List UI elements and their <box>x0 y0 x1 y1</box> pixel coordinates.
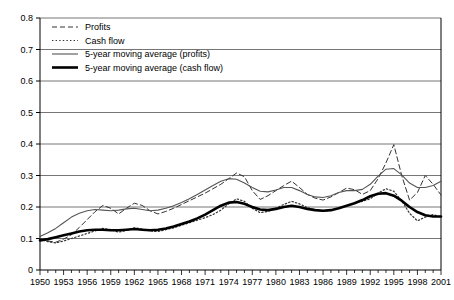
x-tick-label-1: 1953 <box>54 277 74 287</box>
x-tick-label-8: 1974 <box>219 277 239 287</box>
x-tick-label-10: 1980 <box>266 277 286 287</box>
y-tick-label-5: 0.5 <box>20 108 33 118</box>
y-tick-label-0: 0 <box>28 265 33 275</box>
x-tick-label-12: 1986 <box>313 277 333 287</box>
x-tick-label-9: 1977 <box>242 277 262 287</box>
y-tick-label-3: 0.3 <box>20 171 33 181</box>
x-tick-label-17: 2001 <box>431 277 451 287</box>
series-line-1 <box>40 189 441 243</box>
x-tick-label-16: 1998 <box>407 277 427 287</box>
legend-label-3: 5-year moving average (cash flow) <box>85 63 223 73</box>
legend-label-2: 5-year moving average (profits) <box>85 49 210 59</box>
x-tick-label-14: 1992 <box>360 277 380 287</box>
x-tick-label-0: 1950 <box>30 277 50 287</box>
y-tick-label-4: 0.4 <box>20 139 33 149</box>
x-tick-label-15: 1995 <box>384 277 404 287</box>
y-tick-label-7: 0.7 <box>20 45 33 55</box>
x-tick-label-2: 1956 <box>77 277 97 287</box>
x-tick-label-6: 1968 <box>172 277 192 287</box>
x-tick-label-3: 1959 <box>101 277 121 287</box>
legend-label-0: Profits <box>85 22 111 32</box>
x-tick-label-7: 1971 <box>195 277 215 287</box>
y-tick-label-8: 0.8 <box>20 13 33 23</box>
x-tick-label-5: 1965 <box>148 277 168 287</box>
legend-label-1: Cash flow <box>85 36 125 46</box>
y-tick-label-1: 0.1 <box>20 234 33 244</box>
x-tick-label-13: 1989 <box>337 277 357 287</box>
chart-container: 00.10.20.30.40.50.60.70.8195019531956195… <box>0 0 454 300</box>
x-tick-label-4: 1962 <box>124 277 144 287</box>
x-tick-label-11: 1983 <box>289 277 309 287</box>
y-tick-label-2: 0.2 <box>20 202 33 212</box>
y-tick-label-6: 0.6 <box>20 76 33 86</box>
line-chart: 00.10.20.30.40.50.60.70.8195019531956195… <box>0 0 454 300</box>
